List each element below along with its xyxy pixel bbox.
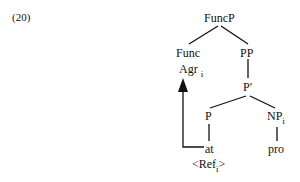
node-p-bar: P′ (243, 81, 252, 93)
np-label: NP (267, 109, 282, 123)
agr-label: Agr (179, 62, 198, 76)
arrowhead-icon (178, 78, 188, 92)
ref-close: > (219, 157, 226, 171)
node-np: NPi (267, 110, 285, 123)
agr-index: i (201, 69, 204, 79)
edge-funcp-func (189, 26, 218, 44)
tree-lines (0, 0, 300, 182)
node-funcp: FuncP (204, 12, 235, 24)
node-p: P (205, 110, 212, 122)
word-at: at (205, 143, 214, 155)
feature-ref: <Refi> (192, 158, 225, 171)
node-func: Func (176, 47, 200, 59)
ref-index: i (216, 164, 219, 174)
edge-pbar-np (250, 96, 275, 108)
edge-pbar-p (210, 96, 246, 108)
movement-arrow-line (183, 90, 204, 147)
word-pro: pro (268, 143, 284, 155)
np-index: i (282, 116, 285, 126)
ref-open: <Ref (192, 157, 216, 171)
node-pp: PP (240, 47, 253, 59)
edge-funcp-pp (221, 26, 248, 44)
node-agr: Agr i (179, 63, 203, 76)
